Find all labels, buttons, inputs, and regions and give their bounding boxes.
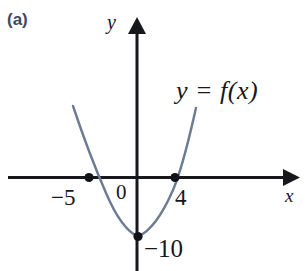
y-intercept-label: −10 [144,236,183,261]
point-root-right [170,173,179,182]
x-intercept-right-label: 4 [175,186,187,209]
origin-label: 0 [116,182,127,203]
x-intercept-left-label: −5 [51,186,75,209]
point-vertex [133,232,142,241]
x-axis-label: x [285,186,293,205]
function-curve [73,106,196,237]
figure-panel: (a) y x y = f(x) 0 −5 4 −10 [0,0,305,271]
point-root-left [84,173,93,182]
panel-label: (a) [7,11,28,28]
y-axis-label: y [107,12,116,32]
y-axis-arrowhead [128,17,146,34]
coordinate-plot [0,0,305,271]
x-axis-arrowhead [283,169,300,186]
function-equation-label: y = f(x) [176,78,258,104]
